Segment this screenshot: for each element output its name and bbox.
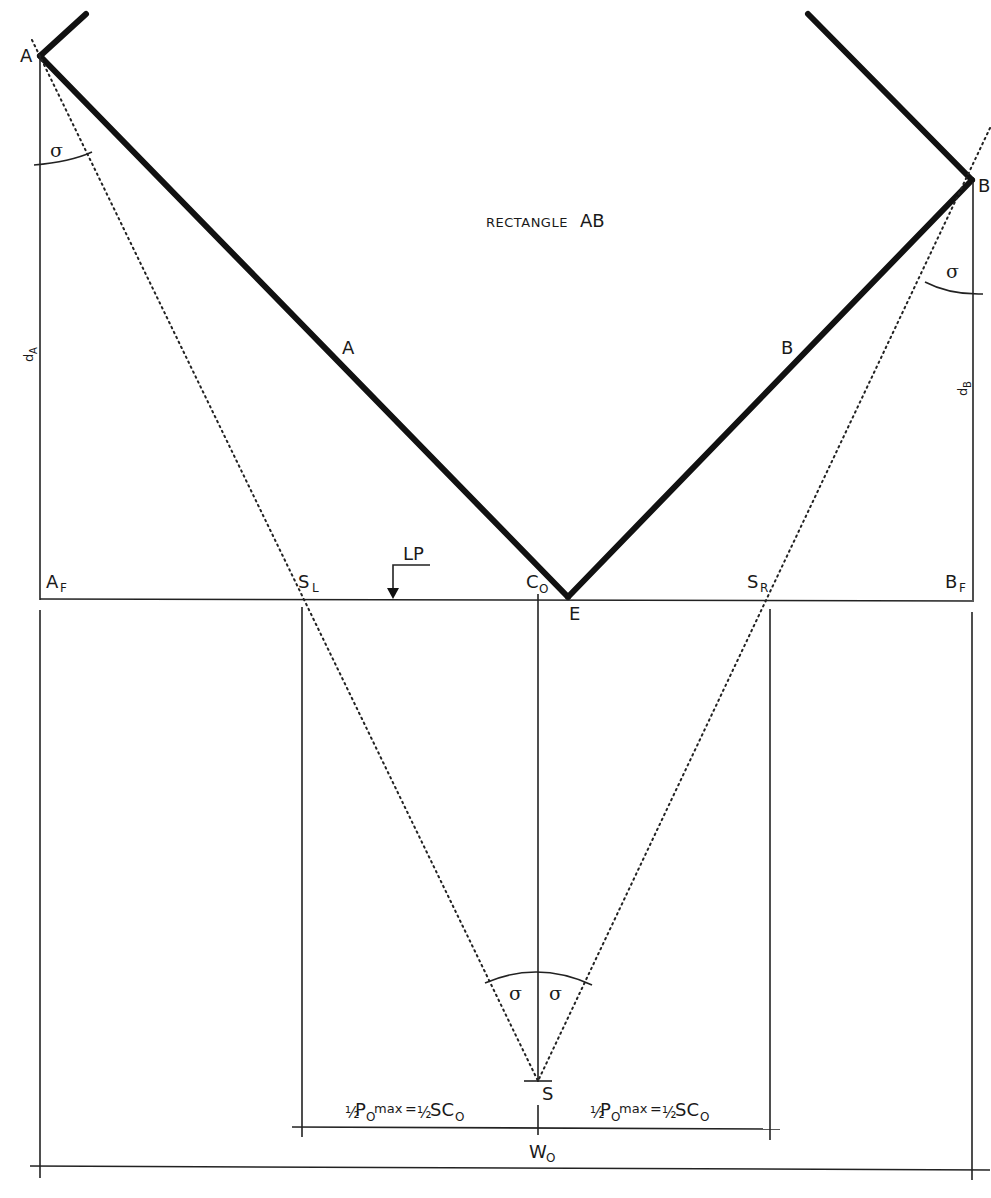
rectangle-title-prefix: RECTANGLE [486,215,568,230]
label-dA: d A [21,347,39,362]
label-BF-main: B [945,571,957,592]
label-point-A: A [20,45,33,66]
sigma-label-S-left: σ [509,982,522,1004]
geometry-diagram: A B RECTANGLE AB A B σ σ σ σ d A d B A F… [0,0,991,1198]
label-SR-main: S [747,571,758,592]
label-W0-sub: O [546,1151,555,1165]
formula-left: ½ P O max = ½ SC O [345,1099,464,1124]
formula-right-max: max [619,1101,648,1116]
label-SL-sub: L [312,581,319,595]
label-C0-main: C [526,571,539,592]
label-edge-A: A [342,337,355,358]
dA-sub: A [28,347,39,354]
formula-left-sc: SC [430,1099,454,1120]
formula-right-sc: SC [675,1099,699,1120]
rectangle-edges [40,14,972,597]
formula-right-sc-sub: O [700,1110,709,1124]
label-AF-main: A [46,571,59,592]
formula-right: ½ P O max = ½ SC O [590,1099,709,1124]
diagram-canvas: A B RECTANGLE AB A B σ σ σ σ d A d B A F… [0,0,991,1198]
label-W0-main: W [529,1141,547,1162]
formula-right-p: P [600,1099,611,1120]
label-S: S [542,1083,553,1104]
edge-b-top-stub [808,14,972,180]
w0-dimension-line [30,1166,990,1170]
labels: A B RECTANGLE AB A B σ σ σ σ d A d B A F… [20,45,990,1165]
sigma-label-B: σ [946,260,959,282]
sigma-arc-A [34,152,92,165]
label-point-B: B [978,175,990,196]
label-SL-main: S [298,571,309,592]
dB-sub: B [962,381,973,388]
edge-b [568,180,972,597]
sigma-label-S-right: σ [549,982,562,1004]
label-BF-sub: F [959,581,966,595]
formula-left-sc-sub: O [455,1110,464,1124]
label-dB: d B [955,381,973,396]
sight-line-B [538,128,990,1081]
sigma-label-A: σ [50,139,63,161]
formula-right-eq: = [650,1101,662,1117]
label-LP: LP [403,543,424,564]
sigma-arc-B [925,282,983,294]
p0max-dimension-line [292,1127,780,1129]
label-C0-sub: O [539,582,548,596]
label-SR-sub: R [760,581,768,595]
label-AF-sub: F [60,581,67,595]
formula-left-p: P [355,1099,366,1120]
lp-arrow-head-icon [387,588,399,599]
label-edge-B: B [781,337,793,358]
formula-left-max: max [374,1101,403,1116]
label-E: E [569,603,580,624]
baseline-AF-BF [40,599,974,601]
rectangle-title-suffix: AB [580,210,605,231]
formula-left-eq: = [405,1101,417,1117]
edge-a [40,56,568,597]
lp-arrow-shaft [393,565,430,592]
edge-a-top-stub [40,14,86,56]
sight-line-A [32,40,538,1081]
